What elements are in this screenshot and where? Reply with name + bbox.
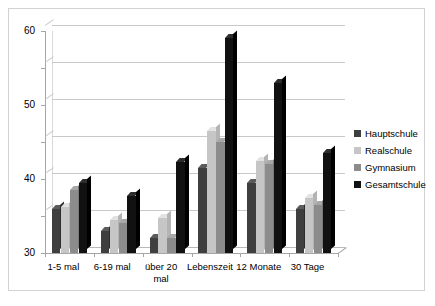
bar-front-face [198, 168, 206, 253]
legend-swatch-icon [354, 147, 361, 154]
x-axis-label-4: 12 Monate [234, 261, 283, 273]
bar-front-face [70, 190, 78, 253]
x-axis-label-2: über 20 mal [137, 261, 186, 285]
bars-layer [45, 31, 345, 254]
bar-3-1 [207, 131, 215, 253]
legend-item-3[interactable]: Gesamtschule [354, 176, 424, 193]
bar-1-0 [101, 231, 109, 253]
x-axis-category-labels: 1-5 mal6-19 malüber 20 malLebenszeit12 M… [45, 261, 350, 301]
bar-side-face [136, 188, 140, 249]
x-axis-label-5: 30 Tage [283, 261, 332, 273]
bar-side-face [185, 155, 189, 249]
bar-3-2 [216, 142, 224, 253]
y-axis-label-30: 30 [24, 248, 35, 258]
bar-0-2 [70, 190, 78, 253]
bar-side-face [233, 31, 237, 249]
bar-front-face [119, 223, 127, 253]
bar-4-3 [274, 83, 282, 253]
y-axis-label-50: 50 [24, 100, 35, 110]
y-axis-label-40: 40 [24, 174, 35, 184]
bar-front-face [127, 196, 135, 253]
bar-front-face [101, 231, 109, 253]
bar-4-2 [265, 164, 273, 253]
legend-item-2[interactable]: Gymnasium [354, 159, 424, 176]
bar-front-face [216, 142, 224, 253]
y-axis-label-60: 60 [24, 26, 35, 36]
bar-1-2 [119, 223, 127, 253]
bar-5-1 [305, 198, 313, 254]
bar-side-face [331, 146, 335, 249]
legend-label: Hauptschule [365, 129, 418, 139]
plot-area: 0102030405060 [45, 31, 345, 261]
legend-item-0[interactable]: Hauptschule [354, 125, 424, 142]
bar-side-face [282, 75, 286, 249]
bar-front-face [314, 205, 322, 253]
bar-5-2 [314, 205, 322, 253]
bar-front-face [274, 83, 282, 253]
bar-2-0 [150, 238, 158, 253]
bar-front-face [110, 220, 118, 253]
legend-label: Gesamtschule [365, 180, 426, 190]
bar-side-face [87, 175, 91, 249]
bar-front-face [52, 209, 60, 253]
bar-front-face [79, 183, 87, 253]
legend-swatch-icon [354, 181, 361, 188]
x-axis-label-0: 1-5 mal [39, 261, 88, 273]
bar-4-0 [247, 183, 255, 253]
bar-front-face [158, 218, 166, 253]
x-axis-label-3: Lebenszeit [186, 261, 235, 273]
bar-2-3 [176, 162, 184, 253]
bar-5-0 [296, 209, 304, 253]
bar-front-face [176, 162, 184, 253]
bar-0-0 [52, 209, 60, 253]
x-axis-label-1: 6-19 mal [88, 261, 137, 273]
bar-3-3 [225, 38, 233, 253]
bar-front-face [150, 238, 158, 253]
bar-2-1 [158, 218, 166, 253]
chart-legend: HauptschuleRealschuleGymnasiumGesamtschu… [354, 125, 424, 193]
bar-front-face [61, 207, 69, 253]
bar-0-3 [79, 183, 87, 253]
bar-5-3 [323, 153, 331, 253]
bar-0-1 [61, 207, 69, 253]
legend-label: Gymnasium [365, 163, 416, 173]
bar-2-2 [167, 238, 175, 253]
bar-front-face [207, 131, 215, 253]
bar-1-1 [110, 220, 118, 253]
legend-item-1[interactable]: Realschule [354, 142, 424, 159]
bar-1-3 [127, 196, 135, 253]
bar-3-0 [198, 168, 206, 253]
chart-frame: 0102030405060 1-5 mal6-19 malüber 20 mal… [8, 8, 425, 291]
bar-front-face [167, 238, 175, 253]
legend-swatch-icon [354, 130, 361, 137]
bar-front-face [247, 183, 255, 253]
bar-front-face [323, 153, 331, 253]
gridline-60 [52, 25, 345, 26]
legend-swatch-icon [354, 164, 361, 171]
bar-4-1 [256, 161, 264, 254]
legend-label: Realschule [365, 146, 412, 156]
